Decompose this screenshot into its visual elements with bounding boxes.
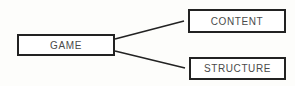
node-game: GAME	[17, 34, 115, 56]
node-game-label: GAME	[50, 40, 82, 51]
edge-game-content	[115, 21, 184, 39]
node-structure-label: STRUCTURE	[204, 63, 271, 74]
node-content: CONTENT	[188, 9, 286, 33]
edge-game-structure	[115, 51, 185, 68]
diagram-canvas: GAME CONTENT STRUCTURE	[0, 0, 295, 86]
node-structure: STRUCTURE	[189, 57, 286, 80]
node-content-label: CONTENT	[211, 16, 264, 27]
